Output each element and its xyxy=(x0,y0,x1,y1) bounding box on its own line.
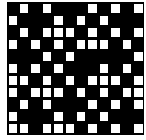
white-cell xyxy=(7,75,18,87)
black-cell xyxy=(76,50,87,62)
white-cell xyxy=(7,14,18,26)
white-cell xyxy=(53,26,64,38)
black-cell xyxy=(18,87,29,99)
white-cell xyxy=(133,99,144,111)
white-cell xyxy=(7,38,18,50)
black-cell xyxy=(18,62,29,74)
black-cell xyxy=(7,50,18,62)
white-cell xyxy=(64,26,75,38)
black-cell xyxy=(133,14,144,26)
white-cell xyxy=(30,38,41,50)
black-cell xyxy=(121,2,132,14)
black-cell xyxy=(30,14,41,26)
white-cell xyxy=(41,87,52,99)
black-cell xyxy=(76,2,87,14)
black-cell xyxy=(18,38,29,50)
white-cell xyxy=(41,26,52,38)
black-cell xyxy=(64,87,75,99)
black-cell xyxy=(41,62,52,74)
black-cell xyxy=(30,75,41,87)
black-cell xyxy=(7,2,18,14)
black-cell xyxy=(7,26,18,38)
black-cell xyxy=(98,2,109,14)
black-cell xyxy=(53,99,64,111)
black-cell xyxy=(30,123,41,135)
white-cell xyxy=(18,123,29,135)
black-cell xyxy=(87,111,98,123)
black-cell xyxy=(30,2,41,14)
black-cell xyxy=(30,26,41,38)
black-cell xyxy=(133,62,144,74)
black-cell xyxy=(30,111,41,123)
black-cell xyxy=(133,38,144,50)
black-cell xyxy=(110,50,121,62)
white-cell xyxy=(30,62,41,74)
white-cell xyxy=(98,14,109,26)
white-cell xyxy=(7,62,18,74)
black-cell xyxy=(121,99,132,111)
black-cell xyxy=(87,62,98,74)
black-cell xyxy=(110,62,121,74)
black-cell xyxy=(53,75,64,87)
white-cell xyxy=(53,38,64,50)
black-cell xyxy=(30,99,41,111)
white-cell xyxy=(64,123,75,135)
black-cell xyxy=(64,111,75,123)
white-cell xyxy=(98,62,109,74)
black-cell xyxy=(110,14,121,26)
white-cell xyxy=(110,123,121,135)
black-cell xyxy=(18,111,29,123)
white-cell xyxy=(87,2,98,14)
black-cell xyxy=(98,26,109,38)
black-cell xyxy=(87,14,98,26)
black-cell xyxy=(53,50,64,62)
black-cell xyxy=(133,111,144,123)
white-cell xyxy=(133,2,144,14)
white-cell xyxy=(110,26,121,38)
white-cell xyxy=(133,26,144,38)
white-cell xyxy=(98,87,109,99)
white-cell xyxy=(18,2,29,14)
black-cell xyxy=(18,14,29,26)
white-cell xyxy=(76,87,87,99)
black-cell xyxy=(98,50,109,62)
white-cell xyxy=(87,123,98,135)
white-cell xyxy=(53,111,64,123)
white-cell xyxy=(133,87,144,99)
white-cell xyxy=(18,99,29,111)
black-cell xyxy=(98,99,109,111)
black-cell xyxy=(76,62,87,74)
white-cell xyxy=(18,26,29,38)
white-cell xyxy=(98,75,109,87)
black-cell xyxy=(18,50,29,62)
white-cell xyxy=(7,123,18,135)
black-cell xyxy=(64,14,75,26)
black-cell xyxy=(121,26,132,38)
black-cell xyxy=(64,62,75,74)
white-cell xyxy=(121,38,132,50)
white-cell xyxy=(53,62,64,74)
white-cell xyxy=(41,123,52,135)
white-cell xyxy=(41,50,52,62)
black-cell xyxy=(41,14,52,26)
white-cell xyxy=(121,62,132,74)
black-cell xyxy=(64,38,75,50)
white-cell xyxy=(64,75,75,87)
white-cell xyxy=(87,38,98,50)
white-cell xyxy=(87,75,98,87)
black-cell xyxy=(30,50,41,62)
weave-pattern-grid xyxy=(7,2,144,135)
black-cell xyxy=(76,123,87,135)
black-cell xyxy=(7,99,18,111)
white-cell xyxy=(87,99,98,111)
black-cell xyxy=(110,111,121,123)
white-cell xyxy=(76,38,87,50)
white-cell xyxy=(133,123,144,135)
white-cell xyxy=(41,2,52,14)
white-cell xyxy=(98,111,109,123)
black-cell xyxy=(64,2,75,14)
black-cell xyxy=(76,75,87,87)
white-cell xyxy=(87,26,98,38)
white-cell xyxy=(110,75,121,87)
black-cell xyxy=(53,2,64,14)
